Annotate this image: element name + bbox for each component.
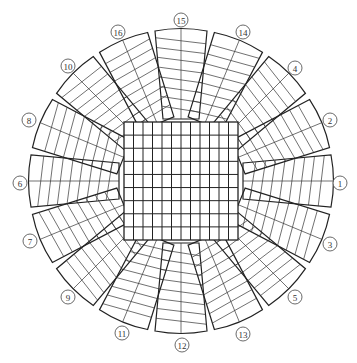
fan-cross-line [243,190,252,227]
label-number: 16 [114,28,124,38]
sector-label-9: 9 [61,290,75,304]
fan-cross-line [260,196,270,236]
fan-cross-line [239,92,265,127]
sector-label-10: 10 [61,59,75,73]
sector-label-2: 2 [323,113,337,127]
label-number: 2 [328,116,333,126]
fan-radial-line [123,238,158,322]
fan-cross-line [202,73,246,85]
fan-cross-line [82,121,93,163]
fan-cross-line [86,198,107,234]
sector-label-5: 5 [288,290,302,304]
fan-cross-line [110,135,119,172]
fan-grid-diagram: 13513121197681016151442 [0,0,357,363]
label-number: 8 [27,116,32,126]
sector-label-7: 7 [23,234,37,248]
center-square-grid [124,122,238,240]
sector-label-1: 1 [333,176,347,190]
fan-cross-line [110,48,152,72]
fan-cross-line [114,58,155,81]
label-number: 11 [118,329,127,339]
fan-cross-line [96,235,122,270]
fan-radial-line [238,205,322,240]
fan-cross-line [204,272,243,295]
fan-cross-line [101,130,111,169]
fan-cross-line [54,108,67,155]
sector-fan-15 [155,29,207,120]
sector-label-14: 14 [236,25,250,39]
sector-label-4: 4 [288,61,302,75]
sector-label-16: 16 [111,25,125,39]
label-number: 9 [66,293,71,303]
sector-label-11: 11 [115,326,129,340]
label-number: 7 [28,237,33,247]
fan-cross-line [199,82,241,93]
fan-cross-line [121,269,163,280]
fan-cross-line [81,248,110,285]
fan-cross-line [91,126,101,166]
fan-cross-line [246,85,273,121]
fan-cross-line [67,204,90,243]
fan-cross-line [278,202,290,246]
fan-cross-line [70,74,108,104]
fan-cross-line [135,243,172,252]
label-number: 14 [239,28,249,38]
fan-radial-line [40,123,124,158]
fan-cross-line [85,89,121,116]
sector-fan-12 [155,243,207,334]
fan-cross-line [73,117,85,161]
fan-cross-line [258,70,288,108]
fan-cross-line [193,101,232,111]
fan-cross-line [248,252,285,281]
fan-cross-line [254,258,292,288]
sector-label-15: 15 [174,13,188,27]
sector-label-3: 3 [323,237,337,251]
fan-cross-line [298,105,323,149]
fan-cross-line [108,295,155,308]
fan-cross-line [105,39,149,64]
label-number: 10 [64,62,74,72]
label-number: 15 [177,16,187,26]
fan-cross-line [255,128,276,164]
sector-label-6: 6 [13,176,27,190]
sector-fan-6 [29,155,120,207]
fan-cross-line [304,210,318,259]
fan-cross-line [77,81,114,110]
fan-cross-line [289,110,313,152]
fan-cross-line [213,298,257,323]
fan-cross-line [269,199,280,241]
label-number: 5 [293,293,298,303]
fan-cross-line [207,54,254,67]
fan-cross-line [286,204,298,249]
fan-cross-line [241,246,277,273]
fan-cross-line [39,213,64,257]
fan-cross-line [103,304,152,318]
fan-cross-line [201,263,239,285]
fan-cross-line [196,91,236,101]
sector-label-13: 13 [236,327,250,341]
fan-cross-line [235,239,270,265]
label-number: 4 [293,64,298,74]
label-number: 6 [18,179,23,189]
fan-cross-line [210,289,252,313]
label-number: 1 [338,179,343,189]
sector-fan-1 [243,155,334,207]
fan-cross-line [281,114,304,155]
fan-cross-line [198,255,234,276]
fan-cross-line [89,241,116,277]
fan-cross-line [45,103,59,152]
label-number: 12 [178,341,187,351]
fan-cross-line [77,201,99,239]
fan-cross-line [263,124,285,162]
fan-cross-line [112,286,157,298]
fan-radial-line [205,40,240,124]
label-number: 13 [239,330,249,340]
fan-cross-line [210,45,259,59]
fan-cross-line [48,210,72,252]
fan-cross-line [252,193,262,232]
fan-cross-line [58,207,81,248]
fan-cross-line [130,252,169,262]
fan-cross-line [63,112,75,157]
fan-cross-line [252,77,281,114]
fan-cross-line [272,119,295,158]
